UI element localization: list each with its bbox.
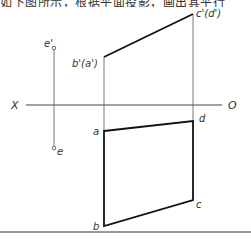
label-c-prime-d-prime: c'(d') bbox=[196, 8, 221, 19]
label-c: c bbox=[196, 199, 202, 210]
label-b-prime-a-prime: b'(a') bbox=[72, 58, 98, 69]
label-a: a bbox=[93, 126, 99, 137]
front-view-edge bbox=[104, 14, 193, 57]
label-e-prime: e' bbox=[44, 38, 53, 49]
point-e-marker bbox=[52, 146, 56, 150]
projection-diagram: X O e' e b'(a') c'(d') a b c d bbox=[0, 0, 251, 239]
label-d: d bbox=[199, 113, 206, 124]
axis-label-o: O bbox=[228, 99, 237, 112]
label-b: b bbox=[93, 221, 99, 232]
axis-label-x: X bbox=[10, 99, 19, 112]
label-e: e bbox=[57, 146, 63, 157]
top-view-quadrilateral bbox=[104, 121, 193, 226]
